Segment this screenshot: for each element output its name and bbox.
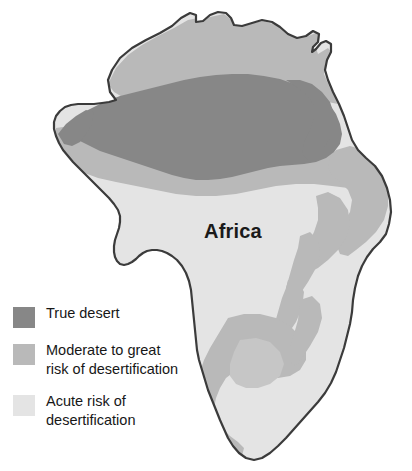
legend-item-true-desert: True desert: [13, 304, 203, 328]
legend-swatch-moderate-risk: [13, 344, 35, 365]
legend-item-moderate-risk: Moderate to great risk of desertificatio…: [13, 341, 203, 379]
map-figure-page: Africa True desert Moderate to great ris…: [0, 0, 412, 471]
legend-swatch-acute-risk: [13, 395, 35, 416]
legend-swatch-true-desert: [13, 307, 35, 328]
legend-item-acute-risk: Acute risk of desertification: [13, 392, 203, 430]
legend-label-acute-risk: Acute risk of desertification: [46, 392, 135, 430]
legend-label-true-desert: True desert: [46, 304, 120, 323]
legend-label-moderate-risk: Moderate to great risk of desertificatio…: [46, 341, 178, 379]
map-legend: True desert Moderate to great risk of de…: [13, 304, 203, 443]
